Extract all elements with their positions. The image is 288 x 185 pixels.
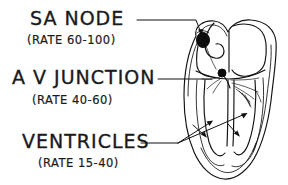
sa-node-leader-line	[137, 20, 201, 33]
ventricles-branch-2	[178, 114, 245, 143]
ventricles-rate-label: (RATE 15-40)	[38, 156, 119, 170]
label-group-ventricles: VENTRICLES (RATE 15-40)	[22, 130, 150, 170]
av-junction-rate-label: (RATE 40-60)	[32, 93, 113, 107]
sa-node-marker	[197, 33, 210, 48]
ventricles-label: VENTRICLES	[22, 130, 150, 152]
ventricles-arrowhead-1	[207, 121, 214, 127]
purkinje-fiber-r1	[232, 83, 258, 92]
av-groove	[196, 70, 265, 79]
right-ventricle-cavity	[204, 80, 225, 156]
bundle-of-his	[224, 76, 230, 88]
diagram-canvas: SA NODE (RATE 60-100) A V JUNCTION (RATE…	[0, 0, 288, 185]
purkinje-fibers-right	[231, 78, 261, 107]
interventricular-septum-right	[233, 80, 234, 146]
heart-illustration	[184, 20, 276, 179]
sa-node-rate-label: (RATE 60-100)	[27, 33, 116, 47]
purkinje-fiber-r2	[234, 86, 254, 99]
label-group-sa-node: SA NODE (RATE 60-100)	[27, 7, 124, 47]
left-ventricle-outer-wall	[232, 78, 264, 167]
conduction-system-diagram: SA NODE (RATE 60-100) A V JUNCTION (RATE…	[0, 0, 288, 185]
ventricles-leader-branches	[178, 113, 248, 143]
purkinje-fiber-r6	[245, 95, 251, 107]
purkinje-fiber-l1	[207, 79, 220, 89]
av-junction-label: A V JUNCTION	[12, 66, 155, 88]
interventricular-septum-left	[227, 80, 228, 146]
sa-node-label: SA NODE	[30, 7, 124, 29]
left-atrium-wall	[232, 24, 266, 76]
av-node-marker	[218, 69, 226, 77]
label-group-av-junction: A V JUNCTION (RATE 40-60)	[12, 66, 155, 107]
